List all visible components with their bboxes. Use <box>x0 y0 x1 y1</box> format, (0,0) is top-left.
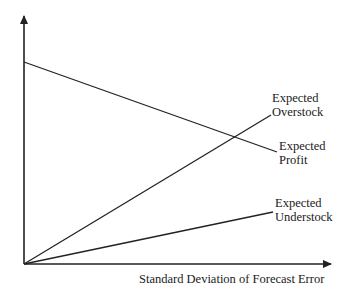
label-expected-overstock: Expected Overstock <box>272 91 323 119</box>
expected-profit-line <box>24 62 277 152</box>
expected-understock-line <box>24 212 273 264</box>
label-line1: Expected <box>275 196 333 210</box>
label-line2: Overstock <box>272 105 323 119</box>
label-expected-understock: Expected Understock <box>275 196 333 224</box>
label-line1: Expected <box>279 139 326 153</box>
label-line2: Understock <box>275 210 333 224</box>
x-axis-label: Standard Deviation of Forecast Error <box>139 272 324 286</box>
label-expected-profit: Expected Profit <box>279 139 326 167</box>
expected-overstock-line <box>24 115 271 264</box>
label-line1: Expected <box>272 91 323 105</box>
label-line2: Profit <box>279 153 326 167</box>
